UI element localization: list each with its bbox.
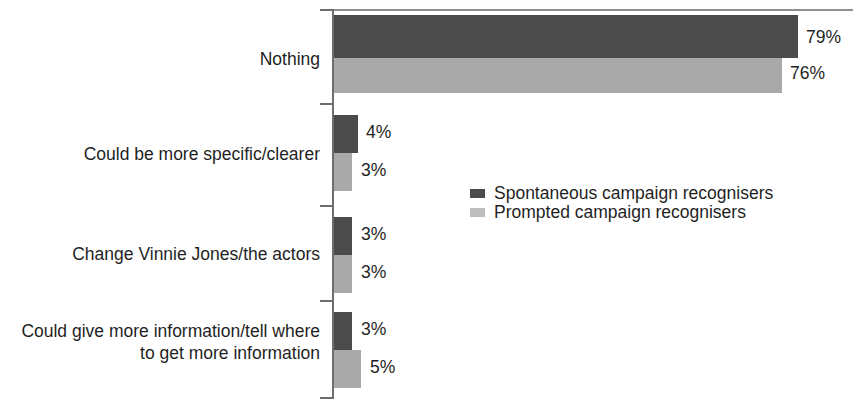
bar-value-label: 76% (790, 64, 825, 82)
bar-value-label: 3% (361, 161, 386, 179)
bar-group: Could give more information/tell where t… (0, 300, 853, 397)
category-label: Nothing (0, 48, 320, 70)
bar-value-label: 3% (361, 225, 386, 243)
chart-legend: Spontaneous campaign recognisers Prompte… (470, 184, 773, 222)
bar-chart: Nothing 79% 76% Could be more specific/c… (0, 0, 853, 399)
bar-spontaneous (334, 115, 358, 153)
category-label: Change Vinnie Jones/the actors (0, 243, 320, 265)
bar-value-label: 3% (361, 263, 386, 281)
legend-label: Prompted campaign recognisers (494, 203, 746, 222)
bar-prompted (334, 255, 352, 293)
bar-prompted (334, 350, 361, 388)
legend-swatch-icon (470, 208, 485, 217)
bar-spontaneous (334, 312, 352, 350)
legend-item-spontaneous: Spontaneous campaign recognisers (470, 184, 773, 203)
legend-swatch-icon (470, 189, 485, 198)
bar-value-label: 79% (806, 28, 841, 46)
bar-spontaneous (334, 217, 352, 255)
bar-prompted (334, 58, 782, 93)
bar-value-label: 5% (370, 358, 395, 376)
bar-value-label: 3% (361, 320, 386, 338)
legend-item-prompted: Prompted campaign recognisers (470, 203, 773, 222)
category-label: Could be more specific/clearer (0, 143, 320, 165)
legend-label: Spontaneous campaign recognisers (494, 184, 773, 203)
bar-group: Nothing 79% 76% (0, 0, 853, 103)
bar-value-label: 4% (366, 123, 391, 141)
bar-spontaneous (334, 15, 798, 58)
category-label: Could give more information/tell where t… (0, 320, 320, 364)
bar-prompted (334, 153, 352, 191)
